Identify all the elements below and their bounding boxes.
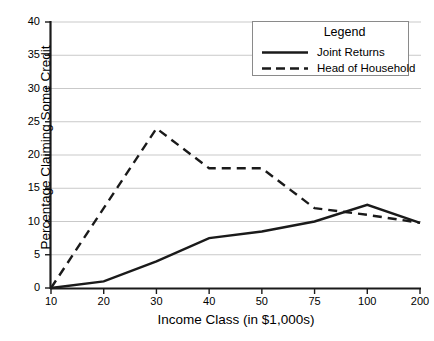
y-axis-title: Percentage Claiming Some Credit (38, 33, 53, 263)
legend-label-head-of-household: Head of Household (317, 62, 415, 74)
x-axis-tick-label: 200 (400, 296, 434, 307)
x-axis-tick-label: 30 (136, 296, 176, 307)
series-line-joint-returns (51, 205, 420, 288)
legend-item-head-of-household: Head of Household (253, 61, 410, 76)
x-axis-tick-label: 100 (347, 296, 387, 307)
legend-label-joint-returns: Joint Returns (317, 46, 385, 58)
y-axis-tick-label: 40 (18, 16, 40, 27)
x-axis-title: Income Class (in $1,000s) (50, 312, 422, 327)
legend-title: Legend (253, 25, 410, 39)
series-line-head-of-household (51, 128, 420, 288)
x-axis-tick-label: 50 (242, 296, 282, 307)
y-axis-tick-label: 0 (18, 282, 40, 293)
legend-swatch-solid-icon (260, 45, 310, 60)
x-axis-tick-label: 75 (295, 296, 335, 307)
line-chart: 0510152025303540 102030405075100200 Perc… (0, 0, 434, 341)
legend-item-joint-returns: Joint Returns (253, 45, 410, 60)
legend: Legend Joint Returns Head of Household (252, 21, 409, 76)
x-axis-tick-label: 20 (84, 296, 124, 307)
x-axis-tick-label: 40 (189, 296, 229, 307)
legend-swatch-dashed-icon (260, 61, 310, 76)
x-axis-tick-label: 10 (31, 296, 71, 307)
